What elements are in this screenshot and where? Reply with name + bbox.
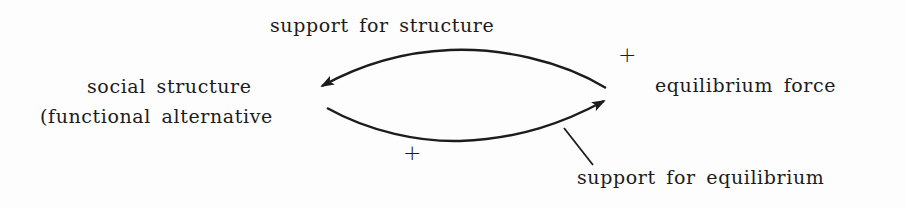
plus-sign-top: + — [618, 44, 636, 66]
arrow-support-for-equilibrium — [327, 101, 604, 141]
plus-sign-bottom: + — [403, 142, 421, 164]
feedback-loop-diagram: support for structure + social structure… — [0, 0, 905, 209]
edge-label-support-for-equilibrium: support for equilibrium — [577, 168, 824, 187]
arrow-support-for-structure — [322, 50, 606, 88]
edge-label-support-for-structure: support for structure — [270, 16, 494, 35]
label-pointer-line — [564, 128, 593, 165]
node-social-structure-line1: social structure — [87, 77, 252, 96]
node-equilibrium-force: equilibrium force — [655, 76, 836, 95]
node-social-structure-line2: (functional alternative — [40, 107, 273, 126]
